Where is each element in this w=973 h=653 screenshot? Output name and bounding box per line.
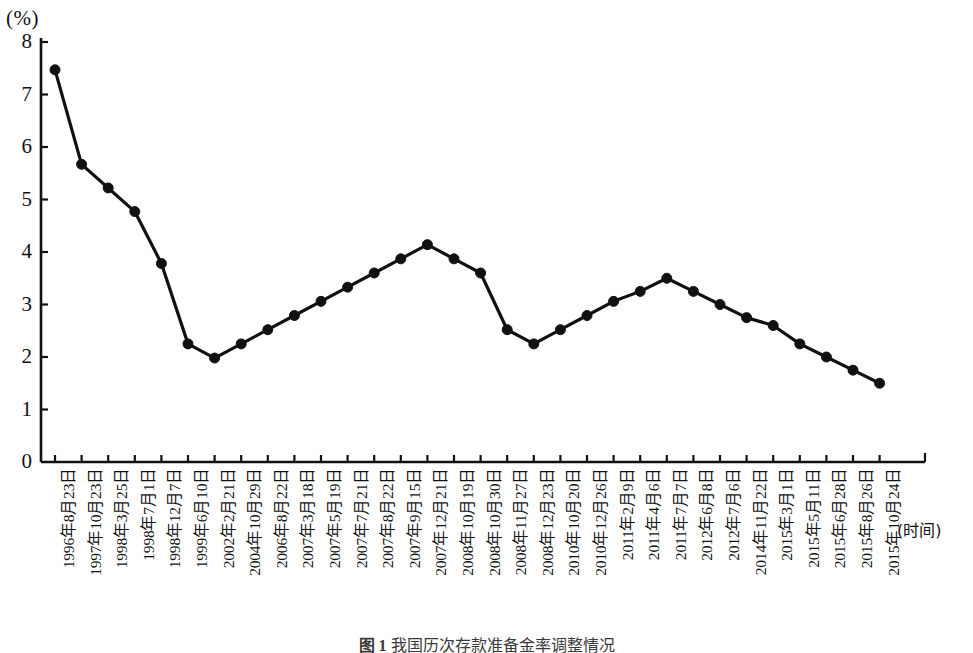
x-axis-tick-label: 2002年2月21日 [221,468,237,570]
chart-figure: (%) 1996年8月23日1997年10月23日1998年3月25日1998年… [0,0,973,653]
x-axis-tick-label: 2006年8月22日 [274,468,290,570]
data-point-marker [476,268,486,278]
data-point-marker [449,254,459,264]
data-point-marker [609,296,619,306]
data-point-marker [50,65,60,75]
data-point-marker [582,311,592,321]
x-axis-tick-label-text: 2007年12月21日 [433,468,449,578]
x-axis-tick-label: 2008年11月27日 [513,468,529,577]
x-axis-tick-label-text: 2007年3月18日 [300,468,316,570]
data-point-marker [183,339,193,349]
x-axis-tick-label-text: 2015年8月26日 [859,468,875,570]
data-point-marker [77,159,87,169]
x-axis-tick-label-text: 2012年7月6日 [726,468,742,563]
x-axis-tick-label-text: 1997年10月23日 [88,468,104,578]
x-axis-tick-labels: 1996年8月23日1997年10月23日1998年3月25日1998年7月1日… [0,468,973,618]
x-axis-tick-label-text: 2012年6月8日 [699,468,715,563]
data-point-marker [635,286,645,296]
x-axis-tick-label: 2015年8月26日 [859,468,875,570]
data-point-marker [316,296,326,306]
x-axis-tick-label: 2004年10月29日 [247,468,263,578]
data-point-marker [502,325,512,335]
x-axis-tick-label-text: 2015年5月11日 [806,468,822,570]
x-axis-tick-label: 2012年7月6日 [726,468,742,563]
x-axis-tick-label-text: 2010年10月20日 [566,468,582,578]
data-point-marker [103,183,113,193]
chart-svg [0,0,973,480]
data-point-marker [795,339,805,349]
x-axis-tick-label: 2015年3月1日 [779,468,795,563]
x-axis-tick-label: 2007年8月22日 [380,468,396,570]
data-point-marker [662,273,672,283]
x-axis-tick-label: 2011年4月6日 [646,468,662,562]
x-axis-tick-label-text: 1998年3月25日 [114,468,130,570]
x-axis-tick-label: 2008年12月23日 [540,468,556,578]
data-series-line [55,70,880,383]
x-axis-tick-label: 2010年10月20日 [566,468,582,578]
data-point-marker [156,259,166,269]
x-axis-tick-label: 2007年12月21日 [433,468,449,578]
x-axis-tick-label-text: 2011年7月7日 [673,468,689,562]
data-point-marker [555,325,565,335]
data-point-marker [263,325,273,335]
y-axis-tick-label: 8 [4,31,32,52]
y-axis-tick-label: 5 [4,189,32,210]
data-point-marker [821,352,831,362]
data-point-marker [236,339,246,349]
plot-area [0,0,973,480]
data-point-marker [396,254,406,264]
data-point-marker [289,311,299,321]
x-axis-tick-label-text: 2011年4月6日 [646,468,662,562]
x-axis-tick-label: 1999年6月10日 [194,468,210,570]
figure-caption-text: 我国历次存款准备金率调整情况 [391,637,615,653]
data-point-marker [369,268,379,278]
x-axis-tick-label-text: 2006年8月22日 [274,468,290,570]
x-axis-tick-label-text: 2007年5月19日 [327,468,343,570]
x-axis-tick-label: 2007年3月18日 [300,468,316,570]
x-axis-tick-label: 2015年5月11日 [806,468,822,570]
x-axis-title: (时间) [897,522,941,540]
x-axis-tick-label-text: 2008年12月23日 [540,468,556,578]
x-axis-tick-label: 1997年10月23日 [88,468,104,578]
y-axis-tick-label: 2 [4,346,32,367]
data-point-marker [130,207,140,217]
x-axis-tick-label-text: 2002年2月21日 [221,468,237,570]
data-point-marker [875,378,885,388]
data-point-marker [715,300,725,310]
x-axis-tick-label-text: 2004年10月29日 [247,468,263,578]
x-axis-tick-label-text: 1998年12月7日 [167,468,183,570]
y-axis-tick-label: 1 [4,399,32,420]
x-axis-tick-label-text: 2015年3月1日 [779,468,795,563]
x-axis-tick-label-text: 2008年10月30日 [487,468,503,578]
figure-caption: 图 1 我国历次存款准备金率调整情况 [0,636,973,653]
x-axis-tick-label: 1996年8月23日 [61,468,77,570]
x-axis-tick-label-text: 1999年6月10日 [194,468,210,570]
x-axis-tick-label: 2008年10月30日 [487,468,503,578]
x-axis-tick-label-text: 2011年2月9日 [620,468,636,562]
y-axis-tick-label: 0 [4,451,32,472]
x-axis-tick-label: 2008年10月19日 [460,468,476,578]
x-axis-tick-label: 1998年3月25日 [114,468,130,570]
x-axis-tick-label-text: 2007年9月15日 [407,468,423,570]
data-point-marker [848,365,858,375]
data-point-marker [422,240,432,250]
x-axis-tick-label: 2007年7月21日 [354,468,370,570]
y-axis-tick-label: 4 [4,241,32,262]
figure-number: 图 1 [359,637,387,653]
x-axis-tick-label: 2014年11月22日 [753,468,769,577]
x-axis-tick-label-text: 2015年6月28日 [832,468,848,570]
data-point-marker [343,282,353,292]
data-point-marker [688,286,698,296]
y-axis-tick-label: 3 [4,294,32,315]
x-axis-tick-label-text: 1998年7月1日 [141,468,157,563]
x-axis-tick-label-text: 2014年11月22日 [753,468,769,577]
y-axis-tick-label: 6 [4,136,32,157]
x-axis-tick-label: 2010年12月26日 [593,468,609,578]
x-axis-tick-label-text: 2007年7月21日 [354,468,370,570]
x-axis-tick-label: 2011年7月7日 [673,468,689,562]
x-axis-tick-label-text: 2010年12月26日 [593,468,609,578]
x-axis-tick-label: 1998年12月7日 [167,468,183,570]
data-point-marker [529,339,539,349]
data-point-marker [210,353,220,363]
x-axis-tick-label: 2011年2月9日 [620,468,636,562]
